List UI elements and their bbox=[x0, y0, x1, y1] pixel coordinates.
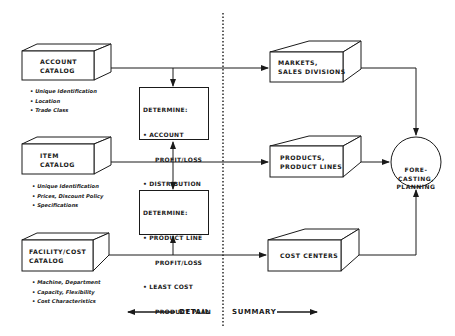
item-catalog-bullets: Unique IdentificationPrices, Discount Po… bbox=[32, 182, 103, 211]
determine-account-box: DETERMINE: ACCOUNT PROFIT/LOSS DISTRIBUT… bbox=[139, 87, 209, 140]
facility-cost-bullets: Machine, DepartmentCapacity, Flexibility… bbox=[32, 278, 101, 307]
determine-product-box: DETERMINE: PRODUCT LINE PROFIT/LOSS LEAS… bbox=[139, 190, 209, 235]
forecasting-planning-label: FORE-CASTING,PLANNING bbox=[391, 149, 441, 200]
item-catalog-label: ITEMCATALOG bbox=[40, 151, 75, 169]
cost-centers-label: COST CENTERS bbox=[280, 251, 338, 260]
products-label: PRODUCTS,PRODUCT LINES bbox=[280, 153, 342, 171]
account-catalog-label: ACCOUNTCATALOG bbox=[40, 57, 77, 75]
account-catalog-bullets: Unique IdentificationLocationTrade Class bbox=[30, 87, 97, 116]
summary-label: SUMMARY bbox=[232, 308, 276, 316]
cost-centers-box bbox=[268, 229, 359, 271]
detail-label: DETAIL bbox=[179, 308, 210, 316]
facility-cost-catalog-label: FACILITY/COSTCATALOG bbox=[29, 247, 86, 265]
markets-label: MARKETS,SALES DIVISIONS bbox=[278, 58, 346, 76]
